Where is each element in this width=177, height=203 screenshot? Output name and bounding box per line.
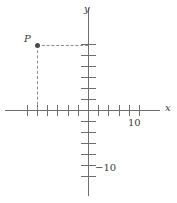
y-tick-label-neg10: −10	[95, 163, 116, 173]
y-axis-tick	[81, 66, 96, 67]
x-axis-tick	[47, 105, 48, 116]
x-axis-line	[5, 110, 160, 111]
x-axis-tick	[57, 105, 58, 116]
dashed-guide-horizontal	[37, 45, 88, 46]
dashed-guide-vertical	[37, 45, 38, 110]
x-axis-tick	[78, 105, 79, 116]
x-axis-label: x	[165, 103, 171, 113]
y-axis-tick	[81, 88, 96, 89]
x-axis-tick	[129, 105, 130, 116]
x-tick-label-10: 10	[128, 118, 141, 128]
y-axis-tick	[81, 77, 96, 78]
y-axis-tick	[81, 143, 96, 144]
point-P-marker	[35, 43, 40, 48]
y-axis-tick	[81, 154, 96, 155]
x-axis-tick	[139, 105, 140, 116]
y-axis-line	[88, 8, 89, 196]
x-axis-tick	[119, 105, 120, 116]
coordinate-plane-figure: P x y 10 −10	[0, 0, 177, 203]
y-axis-label: y	[84, 4, 90, 14]
y-axis-tick	[81, 55, 96, 56]
y-axis-tick	[81, 99, 96, 100]
y-axis-tick	[81, 121, 96, 122]
point-P-label: P	[24, 34, 31, 44]
x-axis-tick	[27, 105, 28, 116]
y-axis-tick	[81, 165, 96, 166]
x-axis-tick	[98, 105, 99, 116]
x-axis-tick	[68, 105, 69, 116]
y-axis-tick	[81, 176, 96, 177]
y-axis-tick	[81, 132, 96, 133]
x-axis-tick	[108, 105, 109, 116]
